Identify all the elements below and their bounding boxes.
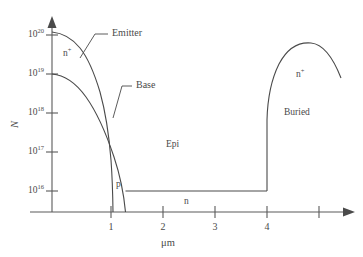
plot-canvas (0, 0, 363, 257)
x-tick-label-3: 3 (208, 222, 222, 232)
y-tick-label-1e17: 1017 (12, 147, 44, 157)
x-tick-label-1: 1 (104, 222, 118, 232)
emitter-curve (52, 32, 113, 212)
doping-profile-figure: 1020 1019 1018 1017 1016 N 1 2 3 4 μm n+… (0, 0, 363, 257)
base-leader-line (113, 86, 132, 118)
base-region-label: p (116, 180, 121, 190)
y-tick-label-1e20: 1020 (12, 30, 44, 40)
buried-region-label: Buried (284, 108, 310, 118)
x-tick-label-2: 2 (156, 222, 170, 232)
emitter-region-label: n+ (63, 49, 71, 59)
epi-region-label: Epi (166, 140, 179, 150)
base-callout-label: Base (136, 80, 155, 90)
y-axis-label: N (10, 121, 21, 128)
x-tick-label-4: 4 (260, 222, 274, 232)
epi-n-region-label: n (184, 197, 189, 207)
x-axis-arrowhead (343, 208, 355, 217)
buried-np-region-label: n+ (296, 70, 304, 80)
y-tick-label-1e19: 1019 (12, 69, 44, 79)
y-tick-label-1e16: 1016 (12, 186, 44, 196)
x-axis-label: μm (161, 238, 175, 249)
y-axis-arrowhead (48, 16, 57, 28)
axis-group (30, 24, 345, 212)
emitter-callout-label: Emitter (112, 28, 142, 38)
base-curve (52, 74, 126, 212)
y-tick-label-1e18: 1018 (12, 108, 44, 118)
